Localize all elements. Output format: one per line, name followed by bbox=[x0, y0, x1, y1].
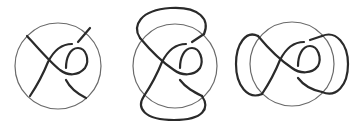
panel-3-strand-c bbox=[310, 36, 322, 40]
panel-2-tangle bbox=[133, 8, 217, 120]
panel-2-top-arc bbox=[137, 8, 206, 38]
panel-3-right-arc bbox=[322, 35, 348, 94]
panel-3-tangle bbox=[236, 22, 348, 106]
panel-2-strand-c bbox=[192, 34, 204, 42]
panel-3-left-arc bbox=[236, 35, 262, 96]
panel-1-strand-d bbox=[66, 80, 86, 98]
panel-3-strand-d bbox=[298, 78, 322, 92]
knot-diagram-figure bbox=[0, 0, 363, 127]
panel-1-tangle bbox=[15, 23, 101, 109]
panel-3-strand-a bbox=[258, 36, 320, 72]
panel-3-strand-b bbox=[262, 42, 304, 94]
panel-2-strand-a bbox=[140, 38, 202, 74]
panel-2-strand-b bbox=[144, 44, 186, 96]
panel-1-strand-b bbox=[30, 44, 72, 96]
panel-2-strand-d bbox=[180, 80, 202, 96]
